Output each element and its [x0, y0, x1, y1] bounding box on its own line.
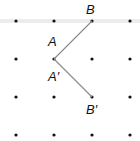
grid-dot — [128, 19, 131, 22]
label-B-prime: B′ — [86, 102, 98, 117]
dot-grid-diagram: B A A′ B′ — [0, 0, 140, 141]
grid-dot — [52, 133, 55, 136]
label-A: A — [47, 34, 57, 49]
grid-dot — [52, 19, 55, 22]
grid-dot — [128, 133, 131, 136]
grid-dot — [128, 95, 131, 98]
grid-dot — [14, 57, 17, 60]
top-guide-band — [0, 19, 140, 23]
grid-dot — [14, 95, 17, 98]
grid-dot — [52, 95, 55, 98]
grid-dot — [14, 133, 17, 136]
label-A-prime: A′ — [47, 69, 60, 84]
grid-dot — [90, 57, 93, 60]
grid-dot — [128, 57, 131, 60]
segment-AprimeBprime — [54, 59, 92, 97]
segment-AB — [54, 21, 92, 59]
label-B: B — [86, 2, 95, 17]
grid-dot — [14, 19, 17, 22]
grid-dot — [90, 133, 93, 136]
